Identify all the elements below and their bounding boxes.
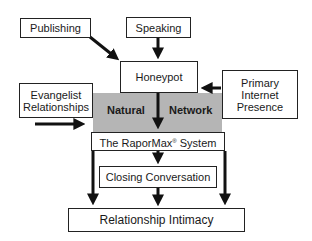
honeypot-label: Honeypot xyxy=(135,71,182,83)
primary-label-line1: Primary xyxy=(241,77,279,89)
intimacy-label: Relationship Intimacy xyxy=(99,214,213,226)
speaking-box: Speaking xyxy=(126,17,191,38)
relationship-intimacy-box: Relationship Intimacy xyxy=(68,208,245,232)
closing-label: Closing Conversation xyxy=(106,171,211,183)
publishing-label: Publishing xyxy=(30,22,81,34)
evangelist-relationships-box: Evangelist Relationships xyxy=(19,83,93,118)
primary-label-line3: Presence xyxy=(237,101,283,113)
honeypot-box: Honeypot xyxy=(120,61,198,93)
publishing-box: Publishing xyxy=(20,18,91,38)
rapormax-suffix: System xyxy=(177,137,217,149)
primary-internet-presence-box: Primary Internet Presence xyxy=(222,70,298,119)
rapormax-system-box: The RaporMax® System xyxy=(91,132,225,151)
rapormax-prefix: The RaporMax xyxy=(100,137,173,149)
primary-label-line2: Internet xyxy=(241,89,278,101)
arrow-publishing-honeypot xyxy=(90,37,115,57)
evangelist-label-line2: Relationships xyxy=(23,101,89,113)
evangelist-label-line1: Evangelist xyxy=(31,89,82,101)
closing-conversation-box: Closing Conversation xyxy=(99,166,217,188)
speaking-label: Speaking xyxy=(136,22,182,34)
rapormax-label: The RaporMax® System xyxy=(100,135,217,149)
